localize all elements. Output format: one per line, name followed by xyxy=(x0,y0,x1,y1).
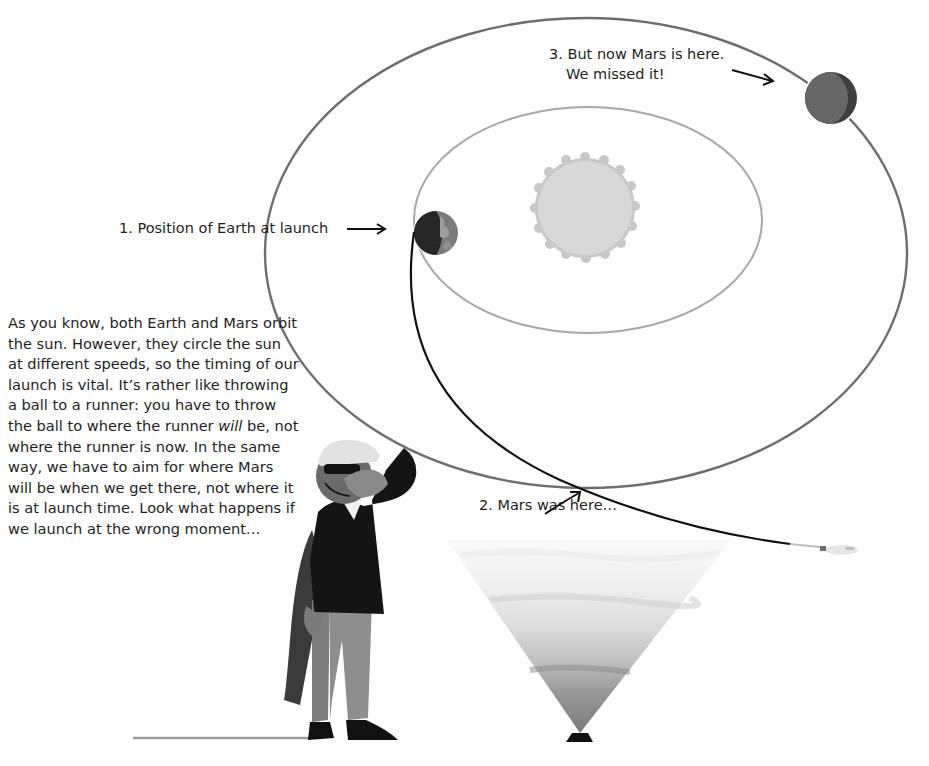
mars-icon xyxy=(803,70,859,126)
spacecraft-icon xyxy=(820,545,858,555)
label-mars-now: 3. But now Mars is here. We missed it! xyxy=(549,44,724,84)
label-mars-now-line1: 3. But now Mars is here. xyxy=(549,46,724,62)
explanation-text-part2: be, not where the runner is now. In the … xyxy=(8,417,298,537)
character-figure xyxy=(284,440,416,740)
label-mars-was-here: 2. Mars was here… xyxy=(479,495,617,515)
projector-base xyxy=(566,733,593,742)
sun-icon xyxy=(530,152,640,263)
label-earth-launch: 1. Position of Earth at launch xyxy=(119,218,328,238)
arrow-earth-icon xyxy=(347,224,385,234)
explanation-emphasis: will xyxy=(218,417,242,434)
label-mars-now-line2: We missed it! xyxy=(549,64,724,84)
arrow-mars-now-icon xyxy=(732,70,773,85)
explanation-paragraph: As you know, both Earth and Mars orbit t… xyxy=(8,313,300,540)
projector-beam xyxy=(447,540,731,733)
explanation-text-part1: As you know, both Earth and Mars orbit t… xyxy=(8,314,299,434)
